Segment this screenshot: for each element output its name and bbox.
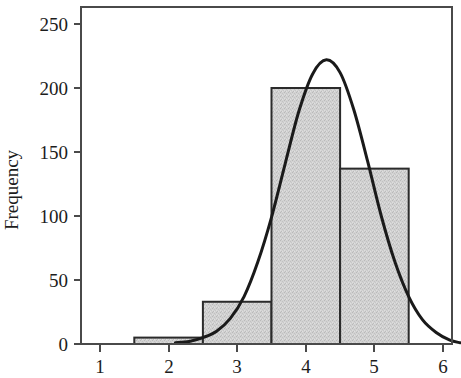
x-tick-label-5: 5 <box>369 356 379 377</box>
chart-canvas: 0 50 100 150 200 250 Frequency 1 2 3 4 5… <box>0 0 461 378</box>
x-tick-label-6: 6 <box>438 356 448 377</box>
y-tick-label-0: 0 <box>59 334 69 355</box>
y-tick-label-250: 250 <box>40 14 69 35</box>
y-axis-tick-labels: 0 50 100 150 200 250 <box>40 14 69 355</box>
x-axis-ticks <box>100 344 443 352</box>
x-tick-label-4: 4 <box>301 356 311 377</box>
y-axis-ticks <box>74 24 81 344</box>
x-tick-label-3: 3 <box>232 356 242 377</box>
histogram-bar <box>272 88 341 344</box>
y-axis-title: Frequency <box>1 149 22 230</box>
x-axis-tick-labels: 1 2 3 4 5 6 <box>95 356 448 377</box>
y-tick-label-100: 100 <box>40 206 69 227</box>
y-tick-label-50: 50 <box>49 270 68 291</box>
y-tick-label-150: 150 <box>40 142 69 163</box>
y-tick-label-200: 200 <box>40 78 69 99</box>
x-tick-label-1: 1 <box>95 356 105 377</box>
histogram-figure: 0 50 100 150 200 250 Frequency 1 2 3 4 5… <box>0 0 461 378</box>
x-tick-label-2: 2 <box>164 356 174 377</box>
